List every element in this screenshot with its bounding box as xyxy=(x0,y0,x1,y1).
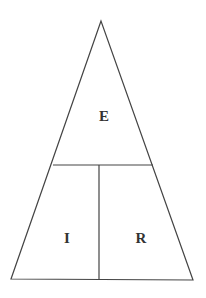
label-e: E xyxy=(99,108,109,124)
label-r: R xyxy=(136,230,147,246)
label-i: I xyxy=(64,230,70,246)
ohms-law-triangle-diagram: E I R xyxy=(0,0,206,298)
triangle-outline xyxy=(11,21,193,280)
